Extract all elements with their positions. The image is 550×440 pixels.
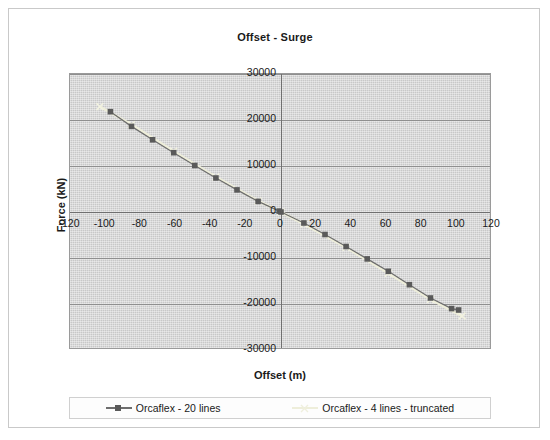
data-point <box>407 282 413 288</box>
legend-swatch-x-icon <box>292 403 318 413</box>
data-point <box>364 256 370 262</box>
legend-label-series2: Orcaflex - 4 lines - truncated <box>322 402 454 414</box>
data-point <box>171 150 177 156</box>
legend-entry-series2[interactable]: Orcaflex - 4 lines - truncated <box>292 402 454 414</box>
data-point <box>449 306 455 312</box>
chart-title: Offset - Surge <box>9 31 541 43</box>
data-point <box>213 175 219 181</box>
data-point <box>428 295 434 301</box>
y-tick-label--30000: -30000 <box>206 342 276 354</box>
data-point <box>150 137 156 143</box>
y-tick-label--20000: -20000 <box>206 296 276 308</box>
data-point <box>456 307 462 313</box>
y-tick-label--10000: -10000 <box>206 250 276 262</box>
y-tick-label-10000: 10000 <box>206 158 276 170</box>
plot-area[interactable] <box>69 73 491 349</box>
data-point <box>108 109 114 115</box>
y-tick-label-20000: 20000 <box>206 112 276 124</box>
series-line-1 <box>110 112 458 310</box>
chart-legend[interactable]: Orcaflex - 20 lines Orcaflex - 4 lines -… <box>69 397 491 419</box>
data-point <box>234 187 240 193</box>
y-tick-label-30000: 30000 <box>206 66 276 78</box>
y-axis-title: Force (kN) <box>55 145 67 265</box>
data-point <box>278 209 284 215</box>
chart-frame: Offset - Surge 3000020000100000-10000-20… <box>8 8 540 428</box>
legend-entry-series1[interactable]: Orcaflex - 20 lines <box>106 402 221 414</box>
y-tick-label-0: 0 <box>206 204 276 216</box>
data-point <box>343 244 349 250</box>
legend-swatch-square-icon <box>106 403 132 413</box>
data-point <box>192 163 198 169</box>
x-axis-title: Offset (m) <box>69 369 491 381</box>
x-tick-label-120: 120 <box>467 217 515 229</box>
legend-label-series1: Orcaflex - 20 lines <box>136 402 221 414</box>
series-layer <box>70 74 491 349</box>
data-point <box>386 269 392 275</box>
data-point <box>129 124 135 130</box>
data-point <box>322 232 328 238</box>
